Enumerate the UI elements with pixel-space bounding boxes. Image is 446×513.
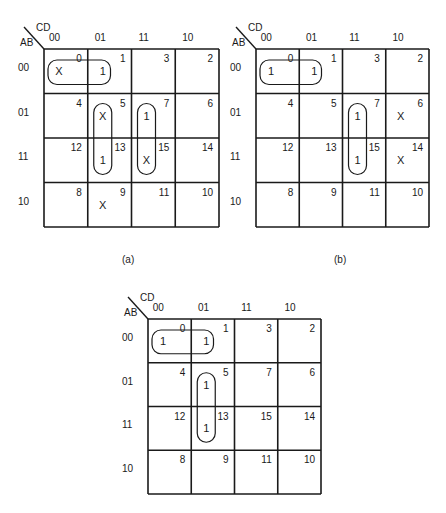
cell-number: 12 bbox=[52, 142, 82, 153]
row-var-label: AB bbox=[232, 37, 245, 48]
col-header: 00 bbox=[153, 302, 164, 313]
row-header: 01 bbox=[18, 107, 29, 118]
kmap-b: CDAB000111100001111001113245716X12131511… bbox=[256, 49, 429, 227]
cell-number: 13 bbox=[307, 142, 337, 153]
cell-number: 5 bbox=[96, 98, 126, 109]
row-var-label: AB bbox=[124, 307, 137, 318]
cell-number: 8 bbox=[155, 454, 185, 465]
caption-a: (a) bbox=[122, 254, 134, 265]
cell-number: 6 bbox=[393, 98, 423, 109]
cell-number: 5 bbox=[199, 367, 229, 378]
row-header: 00 bbox=[230, 62, 241, 73]
row-header: 10 bbox=[18, 196, 29, 207]
kmap-c-grid bbox=[148, 319, 321, 494]
cell-number: 6 bbox=[285, 367, 315, 378]
cell-number: 15 bbox=[350, 142, 380, 153]
col-header: 00 bbox=[49, 32, 60, 43]
row-header: 01 bbox=[122, 376, 133, 387]
col-header: 11 bbox=[349, 32, 359, 43]
row-header: 11 bbox=[18, 151, 28, 162]
col-header: 01 bbox=[95, 32, 106, 43]
col-header: 11 bbox=[241, 302, 251, 313]
cell-number: 15 bbox=[139, 142, 169, 153]
cell-number: 4 bbox=[155, 367, 185, 378]
cell-number: 7 bbox=[139, 98, 169, 109]
row-header: 00 bbox=[122, 332, 133, 343]
cell-number: 14 bbox=[285, 411, 315, 422]
col-header: 01 bbox=[306, 32, 317, 43]
cell-number: 0 bbox=[155, 323, 185, 334]
cell-value: 1 bbox=[199, 379, 213, 391]
cell-number: 7 bbox=[350, 98, 380, 109]
cell-value: X bbox=[140, 154, 154, 166]
cell-number: 9 bbox=[307, 187, 337, 198]
cell-number: 9 bbox=[96, 187, 126, 198]
cell-number: 13 bbox=[96, 142, 126, 153]
row-header: 01 bbox=[230, 107, 241, 118]
cell-number: 2 bbox=[183, 53, 213, 64]
cell-number: 2 bbox=[393, 53, 423, 64]
cell-number: 11 bbox=[350, 187, 380, 198]
row-header: 00 bbox=[18, 62, 29, 73]
cell-number: 11 bbox=[139, 187, 169, 198]
row-header: 11 bbox=[122, 419, 132, 430]
cell-number: 2 bbox=[285, 323, 315, 334]
cell-number: 1 bbox=[307, 53, 337, 64]
cell-value: X bbox=[96, 199, 110, 211]
col-header: 10 bbox=[392, 32, 403, 43]
cell-number: 4 bbox=[263, 98, 293, 109]
cell-number: 6 bbox=[183, 98, 213, 109]
cell-number: 11 bbox=[242, 454, 272, 465]
cell-number: 7 bbox=[242, 367, 272, 378]
cell-number: 14 bbox=[393, 142, 423, 153]
cell-value: 1 bbox=[156, 335, 170, 347]
row-header: 10 bbox=[230, 196, 241, 207]
kmap-a-grid bbox=[44, 49, 219, 227]
cell-value: 1 bbox=[96, 154, 110, 166]
cell-number: 12 bbox=[263, 142, 293, 153]
cell-number: 3 bbox=[139, 53, 169, 64]
cell-number: 10 bbox=[393, 187, 423, 198]
cell-value: 1 bbox=[199, 422, 213, 434]
cell-number: 0 bbox=[263, 53, 293, 64]
cell-value: 1 bbox=[140, 110, 154, 122]
cell-number: 4 bbox=[52, 98, 82, 109]
cell-number: 1 bbox=[199, 323, 229, 334]
cell-number: 5 bbox=[307, 98, 337, 109]
kmap-c: CDAB000111100001111001113245176121311514… bbox=[148, 319, 321, 494]
cell-number: 12 bbox=[155, 411, 185, 422]
cell-value: X bbox=[394, 154, 408, 166]
col-header: 00 bbox=[261, 32, 272, 43]
cell-value: 1 bbox=[351, 154, 365, 166]
cell-number: 8 bbox=[52, 187, 82, 198]
cell-value: X bbox=[394, 110, 408, 122]
row-header: 11 bbox=[230, 151, 240, 162]
cell-number: 1 bbox=[96, 53, 126, 64]
row-var-label: AB bbox=[20, 37, 33, 48]
kmap-b-grid bbox=[256, 49, 429, 227]
cell-value: 1 bbox=[96, 65, 110, 77]
cell-value: X bbox=[52, 65, 66, 77]
cell-value: 1 bbox=[199, 335, 213, 347]
caption-b: (b) bbox=[334, 254, 346, 265]
col-header: 01 bbox=[198, 302, 209, 313]
col-header: 10 bbox=[284, 302, 295, 313]
cell-number: 13 bbox=[199, 411, 229, 422]
cell-number: 3 bbox=[242, 323, 272, 334]
row-header: 10 bbox=[122, 463, 133, 474]
cell-value: 1 bbox=[264, 65, 278, 77]
cell-number: 9 bbox=[199, 454, 229, 465]
col-header: 10 bbox=[182, 32, 193, 43]
col-header: 11 bbox=[138, 32, 148, 43]
cell-number: 15 bbox=[242, 411, 272, 422]
cell-value: 1 bbox=[307, 65, 321, 77]
cell-number: 8 bbox=[263, 187, 293, 198]
cell-number: 10 bbox=[285, 454, 315, 465]
kmap-a: CDAB00011110000111100X113245X7161213115X… bbox=[44, 49, 219, 227]
cell-number: 3 bbox=[350, 53, 380, 64]
cell-number: 10 bbox=[183, 187, 213, 198]
cell-value: 1 bbox=[351, 110, 365, 122]
cell-value: X bbox=[96, 110, 110, 122]
cell-number: 0 bbox=[52, 53, 82, 64]
cell-number: 14 bbox=[183, 142, 213, 153]
